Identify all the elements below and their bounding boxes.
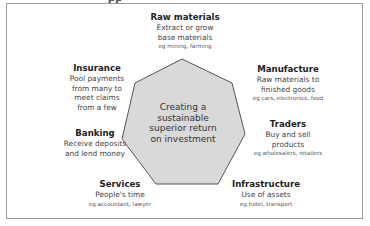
node-desc: and lend money (56, 149, 134, 159)
node-manufacture: Manufacture Raw materials to finished go… (238, 64, 338, 103)
node-example: eg mining, farming (135, 42, 235, 51)
node-desc: Receive deposits (56, 139, 134, 149)
node-desc: finished goods (238, 85, 338, 95)
node-title: Raw materials (135, 12, 235, 23)
node-desc: products (238, 140, 338, 150)
node-services: Services People's time eg accountant, la… (72, 179, 168, 209)
node-title: Services (72, 179, 168, 190)
node-desc: Pool payments (60, 74, 134, 84)
node-title: Traders (238, 119, 338, 130)
node-raw-materials: Raw materials Extract or grow base mater… (135, 12, 235, 51)
node-example: eg accountant, lawyer (72, 200, 168, 209)
node-example: eg hotel, transport (218, 200, 314, 209)
center-line: on investment (142, 134, 224, 145)
node-desc: People's time (72, 190, 168, 200)
node-banking: Banking Receive deposits and lend money (56, 128, 134, 158)
node-desc: meet claims (60, 93, 134, 103)
node-example: eg wholesalers, retailers (238, 149, 338, 158)
node-example: eg cars, electronics, food (238, 94, 338, 103)
node-title: Banking (56, 128, 134, 139)
node-desc: Extract or grow (135, 23, 235, 33)
node-title: Insurance (60, 63, 134, 74)
node-infrastructure: Infrastructure Use of assets eg hotel, t… (218, 179, 314, 209)
center-line: sustainable (142, 113, 224, 124)
node-desc: base materials (135, 33, 235, 43)
node-title: Manufacture (238, 64, 338, 75)
node-desc: from a few (60, 103, 134, 113)
node-insurance: Insurance Pool payments from many to mee… (60, 63, 134, 112)
center-goal-text: Creating a sustainable superior return o… (142, 102, 224, 144)
node-traders: Traders Buy and sell products eg wholesa… (238, 119, 338, 158)
node-desc: Buy and sell (238, 130, 338, 140)
node-desc: Raw materials to (238, 75, 338, 85)
node-desc: Use of assets (218, 190, 314, 200)
node-desc: from many to (60, 84, 134, 94)
center-line: superior return (142, 123, 224, 134)
node-title: Infrastructure (218, 179, 314, 190)
center-line: Creating a (142, 102, 224, 113)
